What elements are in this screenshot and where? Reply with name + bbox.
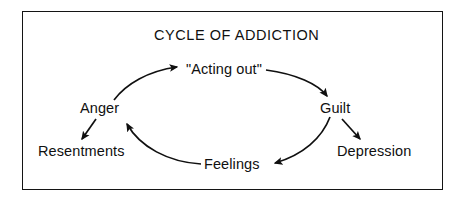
arrow-feelings-to-anger [127,124,201,164]
node-depression: Depression [337,144,411,159]
arrow-anger-to-resentments [82,119,96,139]
arrow-acting-out-to-guilt [266,70,327,96]
node-guilt: Guilt [320,101,350,116]
node-anger: Anger [80,101,119,116]
node-resentments: Resentments [38,144,125,159]
arrow-guilt-to-depression [342,119,360,139]
arrow-anger-to-acting-out [114,67,177,100]
arrow-guilt-to-feelings [275,117,330,163]
node-feelings: Feelings [204,157,260,172]
diagram-canvas: CYCLE OF ADDICTION "Acting out" Guilt Fe… [0,0,464,203]
node-acting-out: "Acting out" [186,62,262,77]
diagram-title: CYCLE OF ADDICTION [154,28,319,43]
